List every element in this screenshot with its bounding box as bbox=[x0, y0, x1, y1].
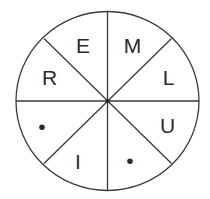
segment-label-bottom-left: I bbox=[75, 150, 81, 173]
segment-label-left-lower: • bbox=[38, 115, 45, 138]
segment-label-bottom-right: • bbox=[126, 149, 133, 172]
segment-label-right-lower: U bbox=[160, 114, 175, 137]
letter-wheel: E M L U • I • R bbox=[0, 0, 210, 199]
segment-label-top-left: E bbox=[76, 34, 90, 57]
segment-label-right-upper: L bbox=[163, 66, 175, 89]
center-dot bbox=[106, 99, 110, 103]
segment-label-left-upper: R bbox=[42, 66, 57, 89]
segment-label-top-right: M bbox=[124, 34, 142, 57]
